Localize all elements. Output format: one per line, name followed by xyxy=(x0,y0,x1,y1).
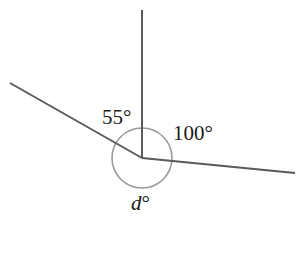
angle-label-100: 100° xyxy=(173,121,213,145)
degree-symbol: ° xyxy=(142,191,150,215)
angle-diagram: 55° 100° d° xyxy=(0,0,300,264)
angle-label-55: 55° xyxy=(102,105,131,129)
angle-label-d: d° xyxy=(131,191,150,215)
angle-variable-d: d xyxy=(131,191,142,215)
right-ray xyxy=(142,158,295,173)
